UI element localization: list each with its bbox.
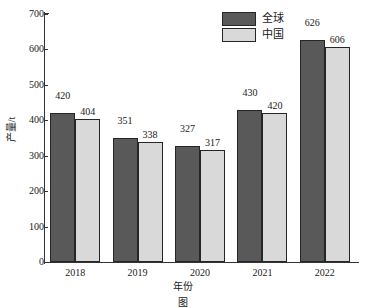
legend-label: 中国 [262,29,284,41]
bar-value-label: 420 [255,101,294,111]
legend-swatch [222,28,256,42]
y-tick-mark [44,262,48,263]
bar-2020-中国[interactable] [200,150,225,262]
bar-group: 626606 [300,14,350,262]
x-tick-label-2020: 2020 [170,267,230,278]
bar-value-label: 338 [131,130,170,140]
legend-swatch [222,12,256,26]
bar-group: 430420 [237,14,287,262]
legend-label: 全球 [262,13,284,25]
legend-item-全球[interactable]: 全球 [222,12,284,26]
bar-2019-中国[interactable] [138,142,163,262]
bar-group: 351338 [113,14,163,262]
x-tick-label-2019: 2019 [108,267,168,278]
bar-group: 327317 [175,14,225,262]
x-axis-line [44,262,359,263]
x-tick-label-2018: 2018 [45,267,105,278]
bar-group: 420404 [50,14,100,262]
bar-value-label: 626 [293,18,332,28]
bar-value-label: 606 [318,35,357,45]
y-tick-label: 600 [4,44,44,54]
x-tick-label-2021: 2021 [232,267,292,278]
bar-2019-全球[interactable] [113,138,138,262]
bar-2018-全球[interactable] [50,113,75,262]
bar-value-label: 420 [43,91,82,101]
x-tick-label-2022: 2022 [295,267,355,278]
y-tick-label: 100 [4,222,44,232]
chart-legend: 全球中国 [222,12,284,42]
bar-value-label: 430 [230,88,269,98]
bar-2018-中国[interactable] [75,119,100,262]
bar-2021-中国[interactable] [262,113,287,262]
bar-2022-全球[interactable] [300,40,325,262]
legend-item-中国[interactable]: 中国 [222,28,284,42]
bar-value-label: 317 [193,138,232,148]
figure-caption: 图 [0,297,366,308]
bar-2021-全球[interactable] [237,110,262,262]
y-tick-label: 200 [4,186,44,196]
y-axis-title: 产量/t [6,100,17,160]
plot-area: 420404351338327317430420626606 [44,14,356,262]
bar-value-label: 327 [168,124,207,134]
x-axis-title: 年份 [0,281,366,292]
y-tick-label: 0 [4,257,44,267]
bar-2022-中国[interactable] [325,47,350,262]
y-tick-label: 500 [4,80,44,90]
bar-value-label: 351 [106,116,145,126]
bar-2020-全球[interactable] [175,146,200,262]
y-tick-label: 700 [4,9,44,19]
bar-value-label: 404 [68,107,107,117]
